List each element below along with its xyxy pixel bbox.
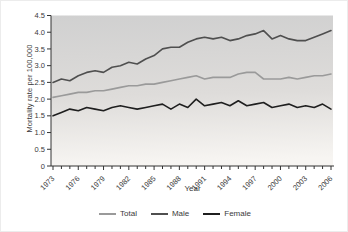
legend-label-male: Male	[172, 209, 189, 218]
total-line-swatch	[99, 213, 116, 215]
chart-legend: Total Male Female	[1, 209, 348, 218]
y-tick-label: 3.0	[35, 61, 45, 70]
legend-label-total: Total	[120, 209, 137, 218]
female-line-swatch	[203, 213, 220, 215]
legend-label-female: Female	[224, 209, 251, 218]
male-line-swatch	[151, 213, 168, 215]
legend-item-total: Total	[99, 209, 137, 218]
y-tick-label: 0	[41, 162, 45, 171]
legend-item-female: Female	[203, 209, 251, 218]
y-tick-label: 4.5	[35, 11, 45, 20]
legend-item-male: Male	[151, 209, 189, 218]
y-tick-label: 2.5	[35, 78, 45, 87]
y-tick-label: 4.0	[35, 28, 45, 37]
mortality-line-chart-figure: 00.51.01.52.02.53.03.54.04.5197319761979…	[0, 0, 348, 232]
x-axis-title: Year	[51, 184, 334, 193]
y-axis-title: Mortality rate per 100,000	[25, 14, 34, 164]
y-tick-label: 3.5	[35, 45, 45, 54]
chart-plot-area: 00.51.01.52.02.53.03.54.04.5197319761979…	[1, 1, 348, 232]
y-tick-label: 1.0	[35, 128, 45, 137]
y-tick-label: 0.5	[35, 145, 45, 154]
y-tick-label: 1.5	[35, 111, 45, 120]
y-tick-label: 2.0	[35, 95, 45, 104]
